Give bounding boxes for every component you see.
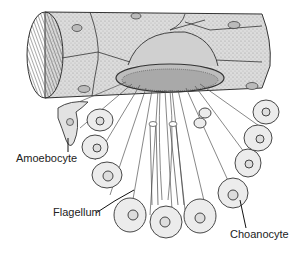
choanocyte-cell [184, 199, 216, 233]
choanocyte-cell [114, 198, 146, 232]
amoebocyte-cell [58, 102, 88, 146]
choanocyte-cell [244, 125, 272, 151]
canal-tube [27, 12, 270, 98]
label-choanocyte: Choanocyte [230, 228, 289, 240]
choanocyte-cell [87, 109, 113, 131]
label-flagellum: Flagellum [53, 206, 101, 218]
choanocyte-cell [218, 178, 248, 208]
label-amoebocyte: Amoebocyte [16, 152, 77, 164]
choanocyte-cell [150, 206, 182, 238]
choanocyte-cell [92, 162, 122, 188]
choanocyte-cell [82, 135, 108, 159]
choanocyte-cell [253, 100, 279, 124]
choanocyte-cell [199, 108, 211, 118]
choanocyte-cell [235, 149, 261, 177]
choanocyte-cell [194, 118, 206, 128]
choanocyte-chamber-diagram [0, 0, 304, 255]
